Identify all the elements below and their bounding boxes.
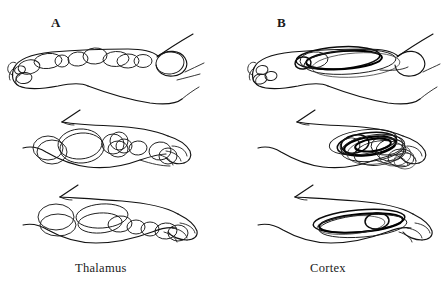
limb-drawing-cortex-row1	[240, 30, 440, 108]
limb-drawing-thalamus-row1	[0, 30, 210, 108]
limb-drawing-thalamus-row3	[20, 183, 220, 253]
limb-drawing-cortex-row3	[255, 183, 445, 253]
caption-cortex: Cortex	[310, 262, 346, 275]
caption-thalamus: Thalamus	[75, 262, 127, 275]
panel-label-a: A	[51, 16, 61, 29]
panel-label-b: B	[277, 16, 286, 29]
limb-drawing-thalamus-row2	[20, 108, 220, 184]
limb-drawing-cortex-row2	[255, 108, 445, 184]
